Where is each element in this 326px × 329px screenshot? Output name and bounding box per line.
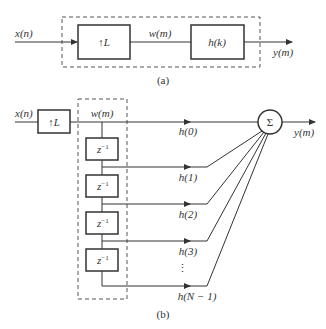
delay-box-2: z−1 (86, 175, 118, 197)
diagram-b: x(n) ↑L w(m) z−1 z−1 z−1 z−1 h(0) (14, 99, 315, 321)
input-label-a: x(n) (14, 27, 33, 40)
input-label-b: x(n) (14, 107, 33, 120)
output-label-a: y(m) (272, 46, 293, 59)
diagram-a: x(n) ↑L w(m) h(k) y(m) (a) (14, 17, 293, 87)
caption-b: (b) (157, 308, 170, 321)
output-label-b: y(m) (293, 126, 314, 139)
filter-label-a: h(k) (208, 36, 226, 49)
svg-text:h(N − 1): h(N − 1) (178, 290, 217, 303)
sum-label: Σ (267, 116, 273, 128)
intermediate-label-a: w(m) (149, 27, 172, 40)
svg-text:h(3): h(3) (179, 245, 198, 258)
delay-box-1: z−1 (86, 138, 118, 160)
svg-text:h(1): h(1) (179, 171, 198, 184)
delay-box-4: z−1 (86, 249, 118, 271)
diagram-canvas: x(n) ↑L w(m) h(k) y(m) (a) x(n) ↑L w(m) … (0, 0, 326, 329)
caption-a: (a) (157, 74, 170, 87)
delay-box-3: z−1 (86, 212, 118, 234)
svg-text:h(0): h(0) (179, 125, 198, 138)
tap-ellipsis: ⋮ (177, 262, 188, 274)
svg-text:h(2): h(2) (179, 208, 198, 221)
intermediate-label-b: w(m) (91, 107, 114, 120)
upsampler-label-a: ↑L (98, 36, 110, 48)
summation-node: Σ (258, 110, 282, 134)
upsampler-label-b: ↑L (48, 116, 60, 128)
tap-0: h(0) (70, 122, 258, 138)
tap-1: h(1) (102, 131, 262, 184)
